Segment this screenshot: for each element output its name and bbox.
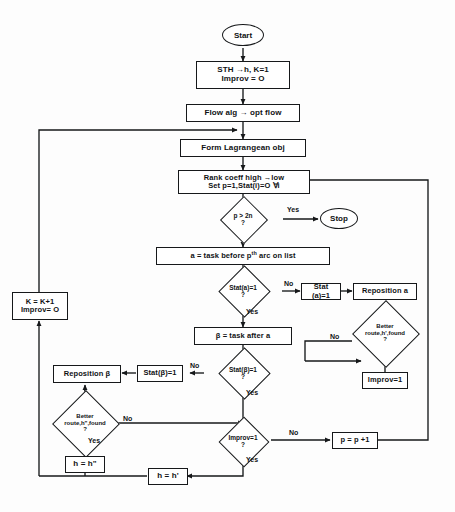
h-equals-h1-process: h = h' — [148, 468, 188, 485]
edge-label-yes-stat-beta: Yes — [246, 389, 258, 396]
stop-terminator: Stop — [320, 208, 358, 229]
k-increment-line-2: Improv= O — [21, 306, 59, 314]
improv-set-process: Improv=1 — [362, 372, 408, 389]
reposition-beta-process: Reposition β — [53, 365, 121, 383]
stat-alpha-decision: Stat(a)=1 ? — [204, 276, 282, 306]
flow-alg-process: Flow alg → opt flow — [186, 104, 300, 122]
form-lagrangean-process: Form Lagrangean obj — [180, 139, 306, 157]
alpha-task-process: a = task before pth arc on list — [156, 247, 330, 265]
k-increment-process: K = K+1 Improv= O — [12, 292, 68, 320]
flowchart-canvas: Start STH →h, K=1 Improv = O Flow alg → … — [0, 0, 455, 512]
edge-label-yes-improv: Yes — [246, 456, 258, 463]
alpha-task-label: a = task before pth arc on list — [190, 252, 295, 260]
beta-task-process: β = task after a — [194, 327, 292, 345]
better-route-h1-decision: Better route,h',found ? — [348, 310, 422, 356]
edge-label-yes-better-h2: Yes — [88, 437, 100, 444]
edge-label-no-stat-beta: No — [190, 362, 199, 369]
edge-label-no-better-h2: No — [123, 415, 132, 422]
p-increment-process: p = p +1 — [332, 432, 378, 449]
edge-label-no-improv: No — [289, 429, 298, 436]
p-greater-2n-decision: p > 2n ? — [203, 205, 283, 233]
edge-betterh1-no-left — [305, 341, 352, 361]
edge-label-yes-stop: Yes — [287, 206, 299, 213]
reposition-alpha-process: Reposition a — [353, 283, 417, 300]
set-stat-beta-process: Stat(β)=1 — [137, 365, 183, 382]
start-terminator: Start — [222, 24, 264, 46]
better-route-h2-decision: Better route,h",found ? — [47, 400, 123, 446]
edge-label-no-stat-alpha: No — [284, 280, 293, 287]
stat-beta-decision: Stat(β)=1 ? — [205, 358, 281, 388]
init-line-2: Improv = O — [221, 75, 264, 84]
edge-label-yes-stat-alpha: Yes — [246, 308, 258, 315]
edge-label-no-better-h1: No — [330, 333, 339, 340]
rank-coeff-process: Rank coeff high →low Set p=1,Stat(i)=O ∀… — [178, 170, 310, 194]
h-equals-h2-process: h = h" — [65, 456, 105, 473]
improv-decision: Improv=1 ? — [205, 427, 281, 455]
init-process: STH →h, K=1 Improv = O — [196, 61, 290, 89]
rank-line-2: Set p=1,Stat(i)=O ∀i — [208, 182, 280, 190]
set-stat-alpha-process: Stat (a)=1 — [301, 283, 341, 300]
